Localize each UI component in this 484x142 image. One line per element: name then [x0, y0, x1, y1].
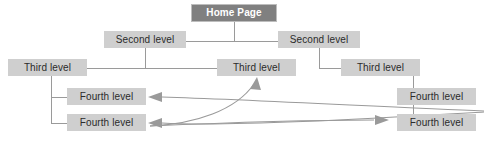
cross-link-to-third-middle-line	[150, 84, 254, 126]
node-third-level-right-label: Third level	[357, 63, 404, 73]
node-fourth-level-right-2-label: Fourth level	[410, 118, 463, 128]
node-second-level-right-label: Second level	[290, 35, 348, 45]
node-home-page[interactable]: Home Page	[191, 4, 277, 22]
arrowhead-left-into-fourth-left-1	[148, 92, 162, 102]
arrowhead-up-into-third-middle	[250, 77, 261, 90]
node-third-level-middle[interactable]: Third level	[217, 59, 296, 76]
node-fourth-level-right-1[interactable]: Fourth level	[397, 88, 476, 105]
node-fourth-level-left-1[interactable]: Fourth level	[67, 88, 146, 105]
node-third-level-left-label: Third level	[24, 63, 71, 73]
node-third-level-right[interactable]: Third level	[341, 59, 420, 76]
node-second-level-left-label: Second level	[116, 35, 174, 45]
sitemap-diagram: Home Page Second level Second level Thir…	[0, 0, 484, 142]
node-third-level-left[interactable]: Third level	[8, 59, 87, 76]
node-second-level-right[interactable]: Second level	[278, 31, 360, 48]
node-home-page-label: Home Page	[206, 8, 261, 18]
node-fourth-level-left-2[interactable]: Fourth level	[67, 114, 146, 131]
node-third-level-middle-label: Third level	[233, 63, 280, 73]
node-fourth-level-right-2[interactable]: Fourth level	[397, 114, 476, 131]
node-second-level-left[interactable]: Second level	[104, 31, 186, 48]
node-fourth-level-left-1-label: Fourth level	[80, 92, 133, 102]
node-fourth-level-right-1-label: Fourth level	[410, 92, 463, 102]
arrowhead-right-into-fourth-right-2	[375, 115, 389, 125]
node-fourth-level-left-2-label: Fourth level	[80, 118, 133, 128]
